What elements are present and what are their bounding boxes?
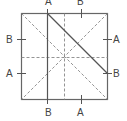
fold-diagram: A B B A A B B A [0,0,127,121]
label-top-left: A [45,0,52,7]
label-bottom-right: A [77,107,84,118]
label-left-lower: A [6,68,13,79]
label-right-upper: A [113,34,120,45]
label-bottom-left: B [45,107,52,118]
label-left-upper: B [6,34,13,45]
label-right-lower: B [113,68,120,79]
label-top-right: B [77,0,84,7]
